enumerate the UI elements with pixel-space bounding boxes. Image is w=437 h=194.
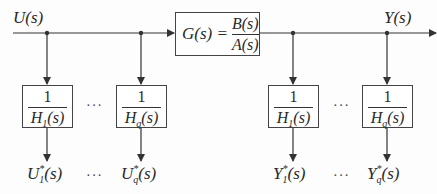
filter-numerator: 1 — [290, 88, 298, 106]
output-y1-label: Y*1(s) — [273, 164, 305, 185]
plant-fraction: B(s) A(s) — [232, 15, 259, 53]
output-u1-label: U*1(s) — [27, 164, 62, 185]
filter-block-y1: 1 H1(s) — [268, 85, 319, 128]
input-signal-label: U(s) — [13, 9, 43, 26]
block-diagram: U(s) Y(s) G(s) = B(s) A(s) 1 H1(s) 1 Hq(… — [0, 0, 437, 194]
filter-denominator: Hq(s) — [125, 109, 158, 129]
filter-numerator: 1 — [384, 88, 392, 106]
filter-denominator: H1(s) — [277, 109, 310, 129]
filter-denominator: H1(s) — [31, 109, 64, 129]
plant-numerator: B(s) — [232, 15, 259, 33]
output-yq-label: Y*q(s) — [367, 164, 399, 185]
output-uq-label: U*q(s) — [121, 164, 156, 185]
ellipsis-left-outputs: ··· — [86, 168, 103, 184]
filter-block-uq: 1 Hq(s) — [116, 85, 167, 128]
plant-block: G(s) = B(s) A(s) — [175, 12, 260, 56]
ellipsis-left-filters: ··· — [86, 98, 103, 114]
filter-numerator: 1 — [44, 88, 52, 106]
plant-lhs: G(s) = — [182, 24, 228, 44]
ellipsis-right-filters: ··· — [333, 98, 350, 114]
filter-block-u1: 1 H1(s) — [22, 85, 73, 128]
filter-numerator: 1 — [138, 88, 146, 106]
output-signal-label: Y(s) — [384, 9, 411, 26]
filter-denominator: Hq(s) — [371, 109, 404, 129]
ellipsis-right-outputs: ··· — [333, 168, 350, 184]
filter-block-yq: 1 Hq(s) — [362, 85, 413, 128]
plant-denominator: A(s) — [232, 36, 259, 54]
